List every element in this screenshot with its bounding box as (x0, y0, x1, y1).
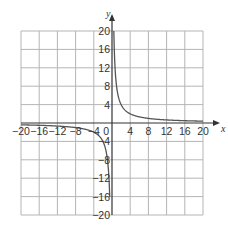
x-tick-label: 16 (179, 125, 191, 137)
x-tick-label: −20 (12, 125, 30, 137)
hyperbola-chart: xy−20−16−12−8−44812162020161284−4−8−12−1… (0, 0, 228, 235)
x-tick-label: 4 (127, 125, 133, 137)
origin-label: 0 (103, 125, 109, 137)
y-tick-label: −8 (98, 154, 110, 166)
y-tick-label: −12 (92, 172, 110, 184)
x-tick-label: 20 (197, 125, 209, 137)
x-tick-label: −16 (30, 125, 48, 137)
tick-labels: xy−20−16−12−8−44812162020161284−4−8−12−1… (12, 8, 226, 221)
y-tick-label: −16 (92, 191, 110, 203)
x-axis-label: x (220, 123, 226, 134)
x-tick-label: −12 (48, 125, 66, 137)
curve-positive-branch (114, 31, 203, 121)
x-tick-label: −8 (70, 125, 82, 137)
y-tick-label: 4 (104, 99, 110, 111)
y-tick-label: 20 (98, 25, 110, 37)
axes (21, 14, 220, 215)
x-tick-label: 12 (161, 125, 173, 137)
x-axis-arrow-icon (213, 120, 220, 126)
y-tick-label: −20 (92, 209, 110, 221)
y-tick-label: −4 (98, 135, 110, 147)
y-tick-label: 16 (98, 43, 110, 55)
y-tick-label: 8 (104, 80, 110, 92)
y-axis-label: y (105, 8, 111, 19)
y-tick-label: 12 (98, 62, 110, 74)
x-tick-label: 8 (145, 125, 151, 137)
